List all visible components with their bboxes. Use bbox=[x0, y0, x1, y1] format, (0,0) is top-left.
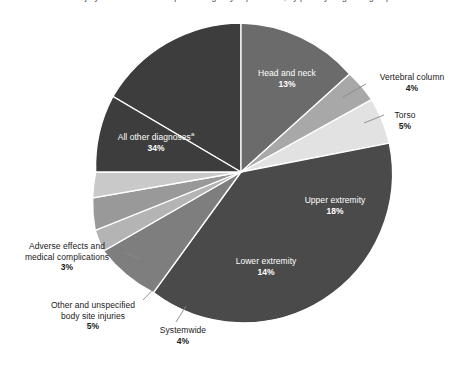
slice-label-systemwide: Systemwide 4% bbox=[140, 325, 226, 346]
slice-label-torso-text: Torso bbox=[394, 110, 415, 120]
slice-label-upper-extremity: Upper extremity 18% bbox=[282, 195, 388, 216]
slice-value-vertebral-column: 4% bbox=[368, 83, 456, 94]
footnote-marker-a: a bbox=[191, 131, 194, 137]
slice-label-other-unspecified-line2: body site injuries bbox=[61, 311, 125, 321]
slice-label-head-and-neck-text: Head and neck bbox=[258, 68, 316, 78]
slice-value-lower-extremity: 14% bbox=[213, 267, 319, 278]
slice-value-all-other-diagnoses: 34% bbox=[96, 143, 216, 154]
slice-value-upper-extremity: 18% bbox=[282, 206, 388, 217]
slice-label-adverse-effects-line1: Adverse effects and bbox=[29, 241, 105, 251]
slice-label-torso: Torso 5% bbox=[382, 110, 428, 131]
slice-value-torso: 5% bbox=[382, 121, 428, 132]
slice-label-systemwide-text: Systemwide bbox=[160, 325, 206, 335]
slice-label-other-unspecified: Other and unspecified body site injuries… bbox=[34, 300, 152, 332]
slice-label-upper-extremity-text: Upper extremity bbox=[305, 195, 366, 205]
slice-label-adverse-effects-line2: medical complications bbox=[25, 252, 109, 262]
slice-label-all-other-diagnoses: All other diagnosesa 34% bbox=[96, 132, 216, 153]
slice-label-all-other-diagnoses-text: All other diagnoses bbox=[118, 132, 191, 142]
slice-label-head-and-neck: Head and neck 13% bbox=[237, 68, 337, 89]
slice-value-head-and-neck: 13% bbox=[237, 79, 337, 90]
pie-chart-figure: Distribution of injury-related visits to… bbox=[0, 0, 456, 367]
slice-value-adverse-effects: 3% bbox=[8, 262, 126, 273]
slice-label-other-unspecified-line1: Other and unspecified bbox=[51, 300, 135, 310]
slice-label-lower-extremity: Lower extremity 14% bbox=[213, 256, 319, 277]
slice-label-vertebral-column: Vertebral column 4% bbox=[368, 72, 456, 93]
slice-label-lower-extremity-text: Lower extremity bbox=[236, 256, 297, 266]
slice-value-systemwide: 4% bbox=[140, 336, 226, 347]
slice-value-other-unspecified: 5% bbox=[34, 321, 152, 332]
slice-label-vertebral-column-text: Vertebral column bbox=[380, 72, 445, 82]
slice-label-adverse-effects: Adverse effects and medical complication… bbox=[8, 241, 126, 273]
